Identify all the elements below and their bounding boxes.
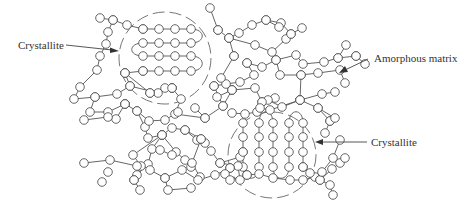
crystallite-node [285,133,294,142]
chain-node [96,14,105,23]
chain-node [211,171,220,180]
chain-node [228,109,237,118]
chain-node [331,114,340,123]
chain-node [139,25,148,34]
chain-node [136,186,145,195]
chain-node [129,151,138,160]
crystallite-node [171,52,180,61]
crystallite-node [255,119,264,128]
chain-node [126,82,135,91]
crystallite-node [187,52,196,61]
crystallite-node [255,148,264,157]
chain-node [144,134,153,143]
crystallite-node [299,133,308,142]
chain-node [299,176,308,185]
crystallite-node [187,25,196,34]
chain-node [352,52,361,61]
chain-node [262,16,271,25]
chain-node [299,163,308,172]
chain-node [133,107,142,116]
polymer-structure-diagram: Crystallite Amorphous matrix Crystallite [0,0,472,205]
chain-node [98,178,107,187]
chain-node [239,148,248,157]
crystallite-node [239,133,248,142]
arrowhead-icon [110,48,119,54]
crystallite-bottom-label: Crystallite [371,136,417,148]
crystallite-node [255,133,264,142]
chain-node [113,90,122,99]
chain-node [243,171,252,180]
chain-node [146,89,155,98]
chain-node [168,84,177,93]
chain-node [145,117,154,126]
chain-node [236,78,245,87]
chain-node [148,145,157,154]
chain-node [80,159,89,168]
chain-node [178,166,187,175]
chain-node [104,113,113,122]
crystallite-node [171,25,180,34]
chain-node [336,136,345,145]
arrowhead-icon [315,139,323,145]
crystallite-node [269,119,278,128]
chain-node [321,129,330,138]
crystallite-node [285,119,294,128]
chain-node [70,95,79,104]
crystallite-node [269,133,278,142]
chain-node [268,48,277,57]
crystallite-node [171,67,180,76]
chain-node [342,41,351,50]
amorphous-matrix-label: Amorphous matrix [374,52,458,64]
chain-segment-nodes [70,4,370,200]
chain-node [93,66,102,75]
chain-node [361,60,370,69]
chain-node [299,60,308,69]
chain-node [272,56,281,65]
crystallite-node [139,52,148,61]
chain-node [133,162,142,171]
chain-node [187,184,196,193]
chain-node [76,83,85,92]
chain-node [96,52,105,61]
chain-node [106,156,115,165]
chain-node [255,170,264,179]
chain-node [276,71,285,80]
chain-node [278,103,287,112]
chain-node [156,146,165,155]
crystallite-node [187,67,196,76]
chain-node [201,114,210,123]
chain-node [102,40,111,49]
crystallite-node [155,67,164,76]
chain-node [161,116,170,125]
chain-node [258,63,267,72]
chain-node [256,104,265,113]
chain-node [230,52,239,61]
crystallite-node [139,39,148,48]
chain-node [104,168,113,177]
crystallite-top-label: Crystallite [18,39,64,51]
chain-node [275,23,284,32]
chain-node [316,176,325,185]
chain-node [121,100,130,109]
chain-node [207,147,216,156]
chain-node [225,34,234,43]
chain-node [210,82,219,91]
chain-node [109,16,118,25]
crystallite-node [155,52,164,61]
chain-node [318,168,327,177]
chain-node [318,90,327,99]
chain-node [146,166,155,175]
chain-node [121,69,130,78]
chain-node [329,154,338,163]
chain-node [174,108,183,117]
chain-node [287,30,296,39]
chain-node [334,54,343,63]
chain-node [328,165,337,174]
chain-node [329,191,338,200]
chain-node [213,93,222,102]
crystallite-node [299,148,308,157]
chain-node [241,110,250,119]
crystallite-node [187,39,196,48]
chain-node [188,159,197,168]
chain-node [296,96,305,105]
